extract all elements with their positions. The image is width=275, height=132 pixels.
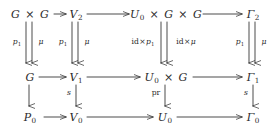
label-mu-col3: μ <box>262 38 267 46</box>
label-mu-col1: μ <box>85 38 90 46</box>
label-id-times-p1: id×p1 <box>132 38 155 46</box>
label-mu-col0: μ <box>39 38 44 46</box>
label-s-col3: s <box>244 89 248 97</box>
node-g-times-g: G × G <box>11 9 49 20</box>
label-p1-col3: p1 <box>236 38 244 46</box>
label-pr-col2: pr <box>152 89 161 97</box>
node-g: G <box>26 72 35 83</box>
label-s-col1: s <box>67 89 71 97</box>
node-v0: V0 <box>70 112 83 123</box>
label-id-times-mu: id×μ <box>176 38 195 46</box>
node-v1: V1 <box>70 72 83 83</box>
node-u0-times-g-times-g: U0 × G × G <box>130 9 202 20</box>
label-p1-col0: p1 <box>13 38 21 46</box>
node-gamma1: Γ1 <box>247 72 260 83</box>
commutative-diagram: G × G V2 U0 × G × G Γ2 G V1 U0 × G Γ1 P0… <box>0 0 275 132</box>
node-p0: P0 <box>24 112 36 123</box>
label-p1-col1: p1 <box>59 38 67 46</box>
node-u0-times-g: U0 × G <box>144 72 187 83</box>
node-gamma0: Γ0 <box>247 112 260 123</box>
node-gamma2: Γ2 <box>247 9 260 20</box>
node-u0: U0 <box>158 112 172 123</box>
node-v2: V2 <box>70 9 83 20</box>
